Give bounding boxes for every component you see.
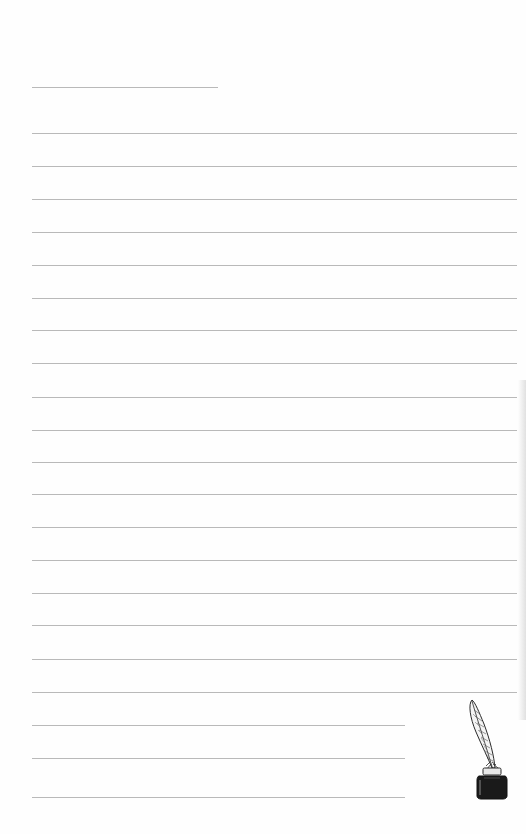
writing-line	[32, 692, 517, 693]
writing-line	[32, 298, 517, 299]
writing-line	[32, 659, 517, 660]
writing-line	[32, 625, 517, 626]
notepaper-page	[0, 0, 526, 834]
writing-line	[32, 232, 517, 233]
page-edge-shadow	[518, 380, 526, 720]
writing-line	[32, 725, 405, 726]
title-line	[32, 87, 218, 88]
writing-line	[32, 330, 517, 331]
writing-line	[32, 265, 517, 266]
writing-line	[32, 593, 517, 594]
writing-line	[32, 430, 517, 431]
writing-line	[32, 560, 517, 561]
writing-line	[32, 363, 517, 364]
writing-line	[32, 397, 517, 398]
writing-line	[32, 527, 517, 528]
writing-line	[32, 797, 405, 798]
writing-line	[32, 494, 517, 495]
writing-line	[32, 133, 517, 134]
writing-line	[32, 462, 517, 463]
writing-line	[32, 758, 405, 759]
writing-line	[32, 199, 517, 200]
writing-line	[32, 166, 517, 167]
quill-inkwell-icon	[462, 696, 512, 802]
